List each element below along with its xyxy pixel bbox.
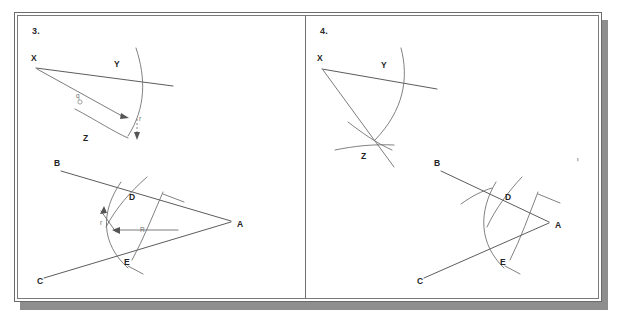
- panel-4-number-label: 4.: [320, 26, 328, 36]
- p3-ray-ba: [61, 171, 231, 221]
- p3-ray-ca: [44, 222, 231, 278]
- p3-point-label-b: B: [54, 158, 60, 168]
- panel-4-figures: X Y Z B A: [306, 16, 598, 298]
- p3-main-arc-from-x: [128, 48, 143, 136]
- p4-arc-cross-b: [335, 145, 394, 150]
- p4-arc-tail-lower: [505, 266, 520, 274]
- panel-3: 3. X Y Z: [18, 16, 305, 298]
- p3-ray-xy: [36, 68, 173, 86]
- p4-arc-from-e: [510, 192, 538, 260]
- p3-radius-tick-marker: [78, 100, 82, 104]
- p3-point-label-z: Z: [83, 133, 88, 143]
- p4-arc-tail-upper: [538, 194, 560, 203]
- panel-3-figures: X Y Z q r: [18, 16, 305, 298]
- p3-point-label-c: C: [37, 276, 43, 286]
- p4-angle-bisector-construction: B A C D E: [417, 158, 561, 286]
- p4-ray-ca: [424, 223, 549, 278]
- scan-speck: [577, 158, 579, 161]
- p3-ray-xz: [37, 69, 122, 116]
- p4-main-arc-from-x: [375, 48, 404, 140]
- p3-arc-tail-upper: [163, 194, 184, 202]
- p3-measure-label-q: q: [76, 92, 80, 100]
- scanned-page: 3. X Y Z: [0, 0, 624, 330]
- p4-point-label-a: A: [555, 220, 561, 230]
- panel-4: 4. X Y Z: [306, 16, 598, 298]
- p3-point-label-a: A: [237, 219, 243, 229]
- p4-point-label-d: D: [505, 192, 511, 202]
- p3-measure-label-R-large: R: [140, 226, 145, 233]
- p4-ray-xz: [323, 70, 394, 167]
- p4-point-label-y: Y: [381, 60, 387, 70]
- p4-point-label-c: C: [417, 276, 423, 286]
- p3-point-label-y: Y: [114, 59, 120, 69]
- p3-measure-r-arrowhead: [100, 206, 107, 214]
- p4-point-label-x: X: [317, 53, 323, 63]
- p4-arc-from-a: [484, 182, 504, 268]
- p4-ray-xy: [322, 69, 437, 89]
- p4-arc-tail-left: [461, 188, 492, 204]
- p3-arc-from-a: [106, 182, 128, 268]
- p3-measure-label-r: r: [139, 115, 142, 122]
- p4-ray-ba: [441, 171, 549, 222]
- p4-point-label-b: B: [434, 158, 440, 168]
- p3-measure-label-r-small: r: [100, 219, 103, 226]
- p3-arc-through-z: [75, 109, 128, 138]
- p3-radius-arrowhead: [120, 113, 129, 119]
- p3-point-label-d: D: [129, 192, 135, 202]
- p3-measure-r-leader: [101, 211, 116, 232]
- p3-measure-R-arrowhead: [112, 227, 120, 234]
- p3-arc-from-d: [106, 177, 147, 227]
- p3-point-label-e: E: [124, 257, 130, 267]
- p4-angle-copy-construction: X Y Z: [317, 48, 437, 167]
- p3-arc-from-e: [132, 192, 163, 260]
- p4-point-label-e: E: [500, 257, 506, 267]
- p3-angle-copy-construction: X Y Z q r: [31, 48, 173, 143]
- panel-3-number-label: 3.: [32, 26, 40, 36]
- p3-chord-measure-arrowhead: [134, 132, 140, 140]
- p4-arc-cross-a: [348, 122, 392, 150]
- p3-angle-bisector-construction: B A C D E r R: [37, 158, 243, 286]
- p3-point-label-x: X: [31, 53, 37, 63]
- p3-arc-tail-lower: [128, 266, 143, 274]
- p4-arc-from-d: [487, 177, 522, 227]
- p4-point-label-z: Z: [361, 151, 366, 161]
